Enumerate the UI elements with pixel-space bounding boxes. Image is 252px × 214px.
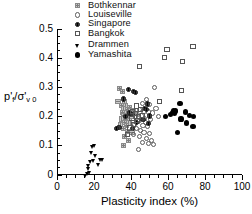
data-point-yamashita — [184, 120, 189, 125]
x-tick-major — [242, 175, 243, 180]
data-point-louiseville — [156, 114, 161, 119]
data-point-drammen — [96, 163, 100, 167]
data-point-bangkok — [179, 88, 184, 93]
x-axis-label: Plasticity index (%) — [57, 195, 242, 207]
x-tick-label: 60 — [156, 181, 180, 192]
data-point-louiseville — [131, 132, 136, 137]
legend-marker-hatched-square-icon — [74, 1, 85, 10]
x-tick-major — [205, 175, 206, 180]
data-point-louiseville — [136, 147, 141, 152]
y-tick-label: 0.2 — [27, 110, 53, 121]
x-tick-minor — [195, 175, 196, 178]
data-point-yamashita — [163, 114, 168, 119]
data-point-louiseville — [141, 130, 146, 135]
x-tick-major — [131, 175, 132, 180]
data-point-bangkok — [180, 59, 185, 64]
data-point-singapore — [133, 90, 138, 95]
data-point-bangkok — [125, 132, 130, 137]
x-tick-label: 40 — [119, 181, 143, 192]
data-point-bangkok — [190, 44, 195, 49]
y-tick-label: 0.5 — [27, 23, 53, 34]
marker-glyph — [75, 3, 80, 8]
x-tick-minor — [177, 175, 178, 178]
y-tick-label: 0 — [27, 169, 53, 180]
data-point-singapore — [147, 113, 152, 118]
x-tick-minor — [214, 175, 215, 178]
data-point-louiseville — [151, 142, 156, 147]
data-point-drammen — [90, 145, 94, 149]
x-tick-major — [168, 175, 169, 180]
y-tick-label: 0.4 — [27, 52, 53, 63]
x-tick-minor — [186, 175, 187, 178]
x-tick-major — [94, 175, 95, 180]
data-point-singapore — [146, 121, 151, 126]
x-tick-major — [57, 175, 58, 180]
scatter-chart-figure: BothkennarLouisevilleSingaporeBangkokDra… — [0, 0, 252, 214]
legend-marker-open-circle-icon — [74, 10, 85, 19]
data-point-louiseville — [147, 131, 152, 136]
data-point-yamashita — [178, 116, 183, 121]
marker-glyph — [75, 12, 80, 17]
marker-glyph — [75, 22, 80, 27]
data-point-drammen — [93, 154, 97, 158]
data-point-bangkok — [164, 47, 169, 52]
x-tick-minor — [232, 175, 233, 178]
x-tick-minor — [103, 175, 104, 178]
x-tick-minor — [149, 175, 150, 178]
x-tick-minor — [140, 175, 141, 178]
x-tick-label: 100 — [230, 181, 252, 192]
data-point-bothkennar — [121, 143, 126, 148]
x-tick-label: 80 — [193, 181, 217, 192]
data-point-bangkok — [162, 55, 167, 60]
data-point-singapore — [114, 126, 119, 131]
data-point-singapore — [121, 96, 126, 101]
x-tick-minor — [112, 175, 113, 178]
data-point-bothkennar — [126, 138, 131, 143]
data-point-yamashita — [191, 114, 196, 119]
legend-marker-filled-speckled-circle-icon — [74, 20, 85, 29]
y-axis-label: p'f/σ'v 0 — [4, 90, 36, 104]
data-point-yamashita — [177, 101, 182, 106]
data-point-louiseville — [140, 140, 145, 145]
data-point-louiseville — [152, 85, 157, 90]
x-tick-minor — [75, 175, 76, 178]
data-point-yamashita — [175, 130, 180, 135]
y-tick-label: 0.1 — [27, 139, 53, 150]
x-tick-minor — [121, 175, 122, 178]
x-tick-minor — [158, 175, 159, 178]
x-tick-label: 20 — [82, 181, 106, 192]
data-point-bangkok — [129, 116, 134, 121]
data-point-louiseville — [137, 134, 142, 139]
x-tick-minor — [223, 175, 224, 178]
data-point-bangkok — [157, 99, 162, 104]
data-point-bothkennar — [120, 89, 125, 94]
x-tick-label: 0 — [45, 181, 69, 192]
data-point-yamashita — [168, 112, 173, 117]
data-point-bangkok — [127, 125, 132, 130]
data-point-drammen — [83, 174, 87, 178]
x-tick-minor — [66, 175, 67, 178]
plot-area — [57, 29, 242, 175]
data-point-singapore — [126, 87, 131, 92]
data-point-yamashita — [190, 124, 195, 129]
data-point-drammen — [100, 158, 104, 162]
data-point-bangkok — [137, 64, 142, 69]
